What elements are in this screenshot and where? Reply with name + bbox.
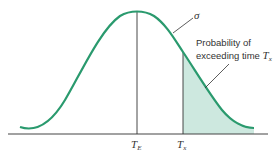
annotation-leader — [205, 64, 229, 88]
annotation-line-2: exceeding time Tx — [196, 49, 273, 63]
mean-label: TE — [131, 138, 142, 152]
exceedance-area — [183, 52, 254, 134]
sigma-leader — [173, 18, 193, 33]
distribution-diagram: σ Probability of exceeding time Tx TE Tx — [0, 0, 277, 157]
threshold-label: Tx — [177, 138, 187, 152]
annotation-line-1: Probability of — [196, 37, 251, 48]
sigma-label: σ — [194, 9, 200, 21]
